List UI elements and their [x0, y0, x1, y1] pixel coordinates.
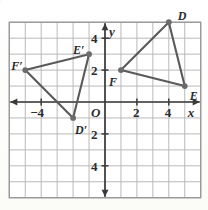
vertex-label-E-prime: E′	[73, 44, 84, 56]
x-tick-label-4: 4	[165, 106, 172, 119]
vertex-dot	[166, 19, 172, 25]
vertex-dot	[86, 51, 92, 57]
x-tick-label--4: −4	[30, 106, 44, 119]
vertex-dot	[70, 115, 76, 121]
x-tick-label-2: 2	[133, 106, 140, 119]
vertex-label-D-prime: D′	[75, 124, 87, 136]
x-axis-label: x	[188, 106, 195, 119]
vertex-label-E: E	[190, 90, 198, 102]
y-axis-label: y	[109, 25, 115, 38]
origin-label: O	[91, 106, 100, 119]
vertex-label-D: D	[178, 10, 187, 22]
vertex-label-F: F	[109, 76, 117, 88]
vertex-dot	[22, 67, 28, 73]
vertex-label-F-prime: F′	[11, 60, 22, 72]
vertex-dot	[118, 67, 124, 73]
y-tick-label--2: 2	[91, 128, 98, 141]
y-tick-label-2: 2	[91, 64, 98, 77]
vertex-dot	[182, 83, 188, 89]
y-tick-label-4: 4	[91, 32, 98, 45]
y-tick-label--4: 4	[91, 160, 98, 173]
